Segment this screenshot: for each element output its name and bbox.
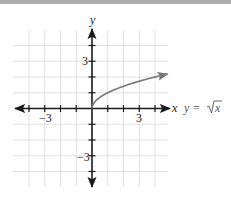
sqrt-graph: y x −3 3 3 −3 y = x [0, 0, 231, 204]
y-tick-label-3: 3 [82, 54, 88, 68]
x-tick-label-neg3: −3 [39, 111, 52, 125]
equation-radicand: x [214, 101, 221, 115]
equation-prefix: y = [183, 101, 200, 115]
x-tick-label-3: 3 [136, 111, 142, 125]
y-axis-label: y [89, 13, 96, 27]
svg-text:y =: y = [183, 101, 200, 115]
y-tick-label-neg3: −3 [77, 150, 90, 164]
equation-label: y = x [183, 101, 222, 115]
x-axis-label: x [171, 101, 178, 115]
sqrt-curve [92, 74, 168, 109]
